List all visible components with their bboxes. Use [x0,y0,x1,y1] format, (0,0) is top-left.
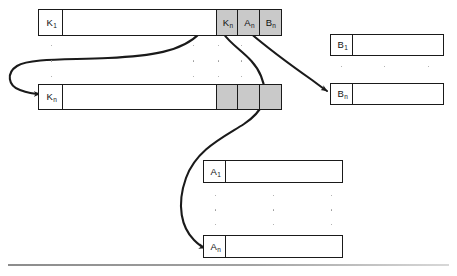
record-cell-label: An [243,18,254,28]
record-cell-b1-body [352,34,444,56]
ellipsis-dot [273,224,274,225]
ellipsis-dot [428,66,429,67]
ellipsis-a-col1 [214,195,217,225]
ellipsis-k-col2 [192,45,195,77]
record-cell-label: Bn [337,89,348,99]
diagram-canvas: K1 Kn An Bn Kn [0,0,457,276]
record-cell-kn-key: Kn [38,84,64,110]
ellipsis-k-col3 [217,45,220,77]
ellipsis-a-col3 [330,195,333,225]
record-cell-label: K1 [46,18,57,28]
ellipsis-dot [241,45,242,46]
ellipsis-dot [215,195,216,196]
record-cell-a1-body [225,160,343,183]
ellipsis-dot [51,76,52,77]
record-cell-k1-body [62,9,217,36]
ellipsis-dot [215,209,216,210]
ellipsis-dot [341,66,342,67]
ellipsis-dot [273,195,274,196]
ellipsis-dot [218,60,219,61]
record-row-b-last: Bn [330,83,443,105]
ellipsis-dot [193,60,194,61]
record-row-a-last: An [203,235,342,258]
record-cell-bn-key: Bn [330,83,354,105]
ellipsis-dot [331,195,332,196]
ellipsis-dot [241,76,242,77]
ellipsis-b-col2 [383,66,386,69]
record-cell-kn-slot-3 [259,84,282,110]
record-cell-kn-slot-2 [237,84,260,110]
record-cell-pointer-an: An [237,9,260,36]
ellipsis-dot [218,45,219,46]
record-cell-kn-body [62,84,217,110]
record-row-k-last: Kn [38,84,280,110]
ellipsis-dot [218,76,219,77]
ellipsis-dot [51,45,52,46]
record-cell-label: Kn [46,92,57,102]
record-cell-bn-body [352,83,444,105]
record-row-a-first: A1 [203,160,342,183]
ellipsis-b-col1 [340,66,343,69]
record-cell-a1-key: A1 [203,160,227,183]
record-cell-an-body [225,235,343,258]
record-cell-k1-key: K1 [38,9,64,36]
ellipsis-dot [193,45,194,46]
record-cell-pointer-bn: Bn [259,9,282,36]
record-cell-label: A1 [210,167,221,177]
ellipsis-dot [193,76,194,77]
ellipsis-a-col2 [272,195,275,225]
record-cell-b1-key: B1 [330,34,354,56]
ellipsis-dot [384,66,385,67]
record-cell-label: An [210,242,221,252]
record-cell-pointer-kn: Kn [216,9,239,36]
ellipsis-b-col3 [427,66,430,69]
ellipsis-k-col1 [50,45,53,77]
record-row-k-first: K1 Kn An Bn [38,9,280,36]
ellipsis-dot [273,209,274,210]
record-cell-label: Kn [222,18,233,28]
record-cell-kn-slot-1 [216,84,239,110]
ellipsis-dot [51,60,52,61]
arrow-bn-to-b-last [249,32,327,91]
bottom-divider-rule [8,264,449,266]
ellipsis-dot [215,224,216,225]
ellipsis-dot [241,60,242,61]
ellipsis-dot [331,209,332,210]
record-row-b-first: B1 [330,34,443,56]
record-cell-label: B1 [337,40,348,50]
ellipsis-k-col4 [240,45,243,77]
ellipsis-dot [331,224,332,225]
record-cell-an-key: An [203,235,227,258]
record-cell-label: Bn [265,18,276,28]
